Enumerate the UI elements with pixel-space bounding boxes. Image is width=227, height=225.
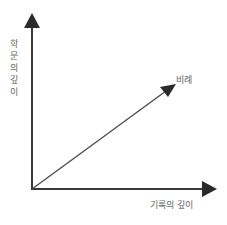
proportional-line — [32, 91, 166, 189]
diagonal-label: 비례 — [176, 73, 192, 86]
x-axis-arrowhead-icon — [202, 181, 217, 197]
y-label-char: 학 — [9, 38, 19, 50]
y-label-char: 이 — [9, 86, 19, 98]
y-label-char: 의 — [9, 62, 19, 74]
axes-diagram — [0, 0, 227, 225]
x-axis-label: 기록의 깊이 — [150, 198, 193, 211]
y-label-char: 깊 — [9, 74, 19, 86]
proportional-arrowhead-icon — [160, 84, 176, 97]
y-label-char: 문 — [9, 50, 19, 62]
y-axis-arrowhead-icon — [24, 13, 40, 28]
y-axis-label: 학 문 의 깊 이 — [9, 38, 19, 98]
